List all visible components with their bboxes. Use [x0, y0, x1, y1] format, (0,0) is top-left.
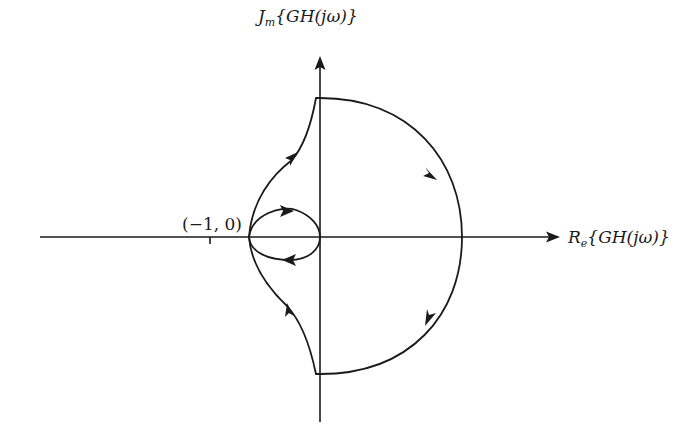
lower-branch-curve: [249, 237, 320, 374]
small-loop-lower: [249, 237, 320, 260]
nyquist-diagram: Jm{GH(jω)} Re{GH(jω)} (−1, 0): [0, 0, 700, 441]
large-semicircle-curve: [320, 98, 462, 374]
critical-point-label: (−1, 0): [182, 214, 242, 234]
imaginary-axis-label: Jm{GH(jω)}: [255, 6, 358, 29]
real-axis-label: Re{GH(jω)}: [567, 227, 670, 250]
arrow-large-arc-upper: [423, 167, 437, 180]
arrow-small-loop-upper: [280, 205, 294, 217]
